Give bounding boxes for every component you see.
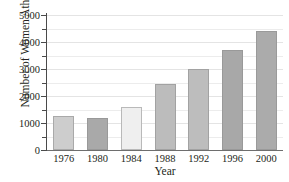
bar-1996	[222, 50, 243, 150]
x-tick-label-1996: 1996	[222, 153, 243, 164]
x-tick-label-1976: 1976	[53, 153, 74, 164]
x-tick-label-1980: 1980	[87, 153, 108, 164]
bar-1976	[53, 116, 74, 150]
y-tick-label: 1000	[19, 118, 40, 129]
chart-title-clipped	[0, 0, 289, 5]
x-axis-line	[46, 150, 283, 151]
y-tick-label: 2000	[19, 91, 40, 102]
y-tick-label: 4000	[19, 37, 40, 48]
x-axis-title: Year	[47, 165, 283, 177]
y-tick-label: 3000	[19, 64, 40, 75]
x-tick-label-1992: 1992	[188, 153, 209, 164]
x-tick-label-1988: 1988	[155, 153, 176, 164]
x-tick-label-2000: 2000	[256, 153, 277, 164]
y-tick-label: 0	[35, 145, 40, 156]
bar-chart: Number of Women Athletes 010002000300040…	[0, 0, 289, 182]
plot-area: 010002000300040005000 197619801984198819…	[47, 15, 283, 150]
bar-1984	[121, 107, 142, 150]
y-tick-label: 5000	[19, 10, 40, 21]
bar-1992	[188, 69, 209, 150]
x-tick-label-1984: 1984	[121, 153, 142, 164]
bar-2000	[256, 31, 277, 150]
bar-1980	[87, 118, 108, 150]
bar-series	[47, 15, 283, 150]
bar-1988	[155, 84, 176, 150]
y-tick-major	[41, 150, 47, 151]
